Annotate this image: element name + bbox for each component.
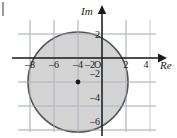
y-tick-label--2: –2 — [86, 69, 100, 79]
x-tick-label--6: –6 — [46, 60, 62, 70]
disk-center-point — [76, 80, 81, 85]
y-tick-label-2: 2 — [88, 30, 100, 40]
x-tick-label-4: 4 — [138, 60, 154, 70]
imaginary-axis-label: Im — [81, 6, 93, 17]
x-tick-label--8: –8 — [22, 60, 38, 70]
y-tick-label--4: –4 — [86, 93, 100, 103]
complex-plane-figure: Im Re O –8 –6 –4 –2 2 4 2 –2 –4 –6 — [0, 0, 177, 138]
x-tick-label-2: 2 — [118, 60, 134, 70]
real-axis-label: Re — [160, 60, 172, 71]
y-tick-label--6: –6 — [86, 117, 100, 127]
